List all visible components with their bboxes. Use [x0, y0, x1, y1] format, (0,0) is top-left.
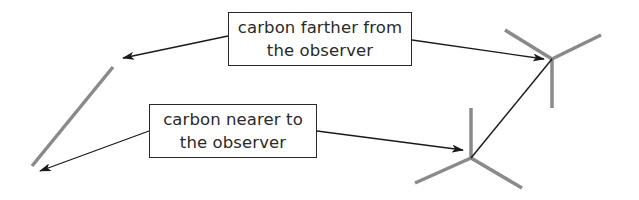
- arrow-far-to-edge: [123, 36, 228, 58]
- front-carbon-sawhorse: [415, 108, 522, 188]
- near-carbon-label-line1: carbon nearer to: [150, 108, 316, 131]
- far-carbon-label-line1: carbon farther from: [229, 16, 411, 39]
- carbon-carbon-bond: [471, 59, 552, 158]
- edge-on-bond-line: [32, 67, 113, 166]
- far-carbon-label-box: carbon farther from the observer: [228, 12, 412, 66]
- arrow-near-to-sawhorse: [317, 131, 463, 150]
- far-carbon-label-line2: the observer: [229, 39, 411, 62]
- near-carbon-label-box: carbon nearer to the observer: [149, 104, 317, 158]
- near-carbon-label-line2: the observer: [150, 131, 316, 154]
- back-carbon-sawhorse: [505, 30, 601, 108]
